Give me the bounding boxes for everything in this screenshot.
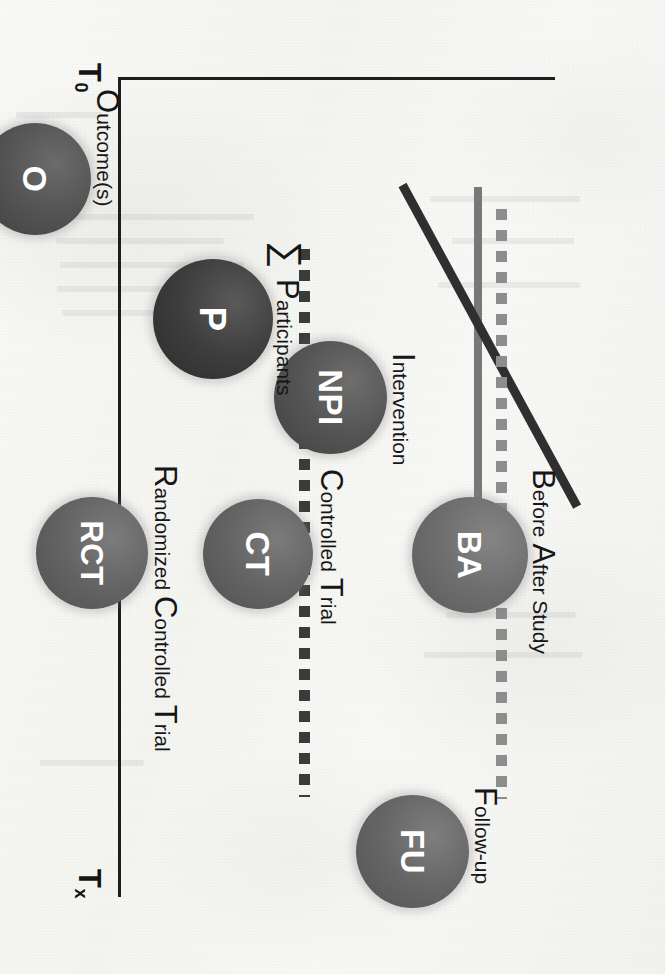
diagram-stage: T0 T1 Tx O P NPI BA CT RCT FU Outcom: [23, 17, 643, 957]
annotation-ct-rest1: ontrolled: [317, 491, 340, 577]
annotation-rct-cap1: R: [148, 465, 183, 487]
axis-tick-tx: Tx: [71, 869, 107, 897]
annotation-intervention-rest: ntervention: [389, 362, 412, 466]
node-before-after-study-label: BA: [453, 531, 486, 580]
allocation-diagonal-line: [398, 183, 581, 509]
annotation-controlled-trial: Controlled Trial: [316, 469, 347, 625]
node-follow-up[interactable]: FU: [356, 795, 469, 908]
node-outcome[interactable]: O: [0, 123, 91, 235]
node-follow-up-label: FU: [396, 829, 429, 874]
annotation-ct-cap2: T: [314, 578, 349, 597]
node-intervention-label: NPI: [314, 369, 347, 426]
annotation-participants: Participants: [272, 279, 303, 395]
annotation-rct-cap2: C: [148, 596, 183, 618]
axis-tick-t0: T0: [71, 63, 107, 91]
node-before-after-study[interactable]: BA: [412, 497, 528, 613]
annotation-ct-cap1: C: [314, 469, 349, 491]
annotation-fu-rest: ollow-up: [471, 806, 494, 884]
node-participants-label: P: [194, 306, 231, 331]
annotation-rct-rest2: ontrolled: [151, 618, 174, 704]
node-outcome-label: O: [18, 166, 52, 193]
node-controlled-trial-label: CT: [241, 532, 274, 577]
annotation-ba-cap2: A: [526, 543, 561, 564]
annotation-randomized-controlled-trial: Randomized Controlled Trial: [150, 465, 181, 752]
annotation-fu-cap: F: [468, 787, 503, 806]
node-participants[interactable]: P: [153, 259, 273, 379]
annotation-ba-rest1: efore: [529, 490, 552, 544]
annotation-before-after-study: Before After Study: [528, 469, 559, 654]
axis-tick-t0-letter: T: [72, 63, 107, 81]
annotation-participants-rest: articipants: [273, 300, 296, 396]
annotation-ba-cap1: B: [526, 469, 561, 490]
annotation-outcome-rest: utcome(s): [93, 113, 116, 206]
annotation-rct-rest3: rial: [151, 724, 174, 752]
annotation-ct-rest2: rial: [317, 597, 340, 625]
annotation-outcome-cap: O: [90, 89, 125, 113]
annotation-follow-up: Follow-up: [470, 787, 501, 884]
annotation-rct-cap3: T: [148, 705, 183, 724]
annotation-rct-rest1: andomized: [151, 487, 174, 596]
rct-baseline-bar: [474, 187, 482, 499]
figure-page: T0 T1 Tx O P NPI BA CT RCT FU Outcom: [0, 0, 665, 974]
node-randomized-controlled-trial[interactable]: RCT: [36, 497, 148, 609]
annotation-intervention: Intervention: [388, 353, 419, 466]
axis-tick-tx-letter: T: [72, 869, 107, 887]
axis-tick-t0-subscript: 0: [71, 82, 91, 92]
annotation-ba-rest2: fter Study: [529, 564, 552, 654]
node-controlled-trial[interactable]: CT: [203, 499, 313, 609]
node-randomized-controlled-trial-label: RCT: [76, 520, 107, 585]
axis-tick-tx-subscript: x: [71, 888, 91, 898]
y-axis-outcome: [118, 77, 555, 80]
annotation-outcome: Outcome(s): [92, 89, 123, 206]
annotation-participants-cap: P: [270, 279, 305, 300]
annotation-intervention-cap: I: [386, 353, 421, 362]
sigma-icon: ∑: [269, 241, 307, 268]
